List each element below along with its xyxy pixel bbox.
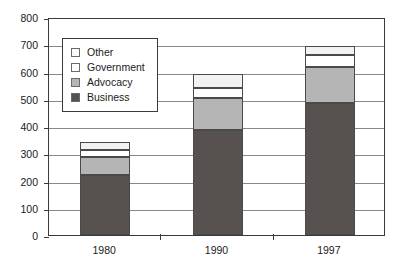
- y-axis-tick-label: 300: [0, 149, 38, 160]
- y-axis-tick: [44, 128, 49, 129]
- legend-item-label: Other: [87, 47, 113, 58]
- y-axis-label-group: 0100200300400500600700800: [0, 18, 44, 236]
- bar-segment-other: [80, 142, 130, 150]
- y-axis-tick: [44, 155, 49, 156]
- y-axis-tick: [44, 210, 49, 211]
- bar-segment-government: [80, 150, 130, 157]
- x-axis-tick-label: 1980: [92, 244, 115, 256]
- bar-segment-advocacy: [80, 157, 130, 175]
- legend-item-label: Government: [87, 62, 145, 73]
- legend-item: Advocacy: [71, 75, 145, 90]
- stacked-bar-chart: 0100200300400500600700800 198019901997 O…: [0, 0, 399, 269]
- y-axis-tick-label: 0: [0, 231, 38, 242]
- legend-item-label: Business: [87, 92, 130, 103]
- legend-swatch-government-icon: [71, 63, 80, 72]
- x-axis-label-group: 198019901997: [48, 240, 385, 260]
- legend-item: Other: [71, 45, 145, 60]
- bar-segment-government: [305, 55, 355, 67]
- x-axis-tick: [160, 234, 161, 240]
- y-axis-tick-label: 400: [0, 122, 38, 133]
- y-axis-tick: [44, 74, 49, 75]
- bar-segment-business: [80, 175, 130, 235]
- bar-segment-other: [305, 46, 355, 55]
- legend-item-label: Advocacy: [87, 77, 133, 88]
- bar-segment-advocacy: [193, 98, 243, 130]
- bar-segment-business: [193, 130, 243, 235]
- bar-stack: [193, 17, 243, 235]
- bar-segment-advocacy: [305, 67, 355, 104]
- y-axis-tick-label: 100: [0, 204, 38, 215]
- y-axis-tick: [44, 101, 49, 102]
- y-axis-tick-label: 800: [0, 13, 38, 24]
- legend-swatch-other-icon: [71, 48, 80, 57]
- bar-segment-business: [305, 103, 355, 235]
- bar-segment-other: [193, 74, 243, 87]
- bar-stack: [305, 17, 355, 235]
- chart-legend: OtherGovernmentAdvocacyBusiness: [62, 38, 158, 112]
- y-axis-tick-label: 200: [0, 176, 38, 187]
- y-axis-tick-label: 600: [0, 67, 38, 78]
- y-axis-tick: [44, 237, 49, 238]
- legend-item: Government: [71, 60, 145, 75]
- y-axis-tick: [44, 19, 49, 20]
- y-axis-tick-label: 700: [0, 40, 38, 51]
- bar-segment-government: [193, 88, 243, 98]
- y-axis-tick: [44, 183, 49, 184]
- x-axis-tick-label: 1990: [205, 244, 228, 256]
- legend-swatch-advocacy-icon: [71, 78, 80, 87]
- x-axis-tick: [273, 234, 274, 240]
- legend-swatch-business-icon: [71, 93, 80, 102]
- y-axis-tick: [44, 46, 49, 47]
- legend-item: Business: [71, 90, 145, 105]
- x-axis-tick-label: 1997: [317, 244, 340, 256]
- y-axis-tick-label: 500: [0, 95, 38, 106]
